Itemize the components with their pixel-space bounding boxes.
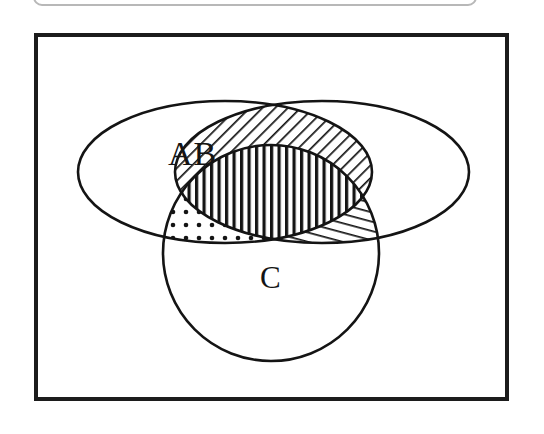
- set-label-c: C: [260, 262, 281, 293]
- set-label-ab: AB: [168, 137, 217, 171]
- cut-off-rounded-box: [33, 0, 477, 6]
- figure-border: [34, 33, 509, 401]
